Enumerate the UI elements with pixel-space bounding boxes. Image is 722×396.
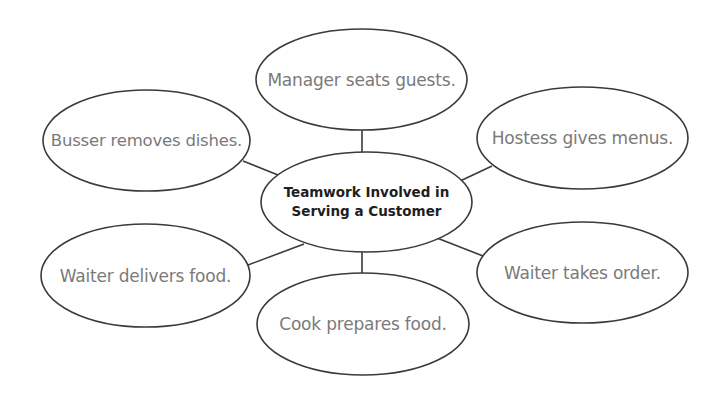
node-hostess-label: Hostess gives menus. bbox=[477, 87, 688, 189]
center-label-line1: Teamwork Involved in bbox=[284, 183, 450, 202]
center-label-line2: Serving a Customer bbox=[292, 202, 442, 221]
node-cook-label: Cook prepares food. bbox=[257, 273, 469, 375]
node-busser-label: Busser removes dishes. bbox=[43, 90, 250, 191]
node-waiter-deliver-label: Waiter delivers food. bbox=[41, 224, 250, 327]
node-manager-label: Manager seats guests. bbox=[256, 29, 467, 130]
center-label: Teamwork Involved in Serving a Customer bbox=[261, 152, 472, 252]
node-waiter-order-label: Waiter takes order. bbox=[477, 222, 688, 323]
